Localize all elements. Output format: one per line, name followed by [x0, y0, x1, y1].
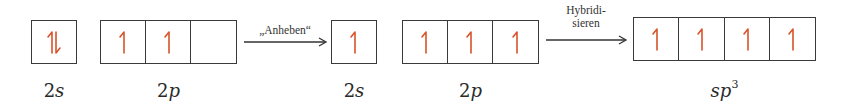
arrow-label-hybridisieren: Hybridi- sieren	[546, 4, 626, 30]
label-orbital: s	[55, 80, 64, 101]
orbital-cell	[403, 21, 448, 63]
orbital-cell	[725, 18, 770, 60]
orbital-cell	[679, 18, 724, 60]
label-number: 2	[344, 80, 355, 101]
orbital-cell	[101, 21, 146, 63]
electron-up-icon	[739, 26, 755, 53]
orbital-box-2p-ground	[100, 20, 237, 64]
electron-up-icon	[417, 29, 433, 56]
label-number: 2	[157, 80, 168, 101]
arrow-right-icon	[545, 34, 629, 46]
electron-up-icon	[160, 29, 176, 56]
arrow-label-line: Hybridi-	[546, 4, 626, 17]
label-orbital: sp	[711, 80, 732, 101]
label-number: 2	[459, 80, 470, 101]
orbital-box-2p-excited	[402, 20, 539, 64]
electron-pair-icon	[46, 29, 62, 56]
label-number: 2	[44, 80, 55, 101]
label-2p-ground: 2p	[100, 80, 237, 101]
electron-up-icon	[784, 26, 800, 53]
arrow-label-line: sieren	[546, 17, 626, 30]
electron-up-icon	[462, 29, 478, 56]
orbital-cell	[332, 21, 376, 63]
orbital-cell	[191, 21, 236, 63]
electron-up-icon	[115, 29, 131, 56]
electron-up-icon	[648, 26, 664, 53]
label-superscript: 3	[731, 78, 738, 91]
label-2p-excited: 2p	[402, 80, 539, 101]
orbital-cell	[448, 21, 493, 63]
orbital-cell	[146, 21, 191, 63]
orbital-box-sp3	[633, 17, 816, 61]
orbital-cell	[32, 21, 76, 63]
label-2s-excited: 2s	[331, 80, 377, 101]
label-orbital: s	[355, 80, 364, 101]
label-2s-ground: 2s	[31, 80, 77, 101]
arrow-label-line: „Anheben“	[259, 24, 311, 36]
arrow-right-icon	[243, 36, 329, 48]
label-orbital: p	[168, 80, 180, 101]
label-sp3: sp3	[633, 80, 816, 101]
orbital-box-2s-ground	[31, 20, 77, 64]
orbital-cell	[634, 18, 679, 60]
orbital-box-2s-excited	[331, 20, 377, 64]
electron-up-icon	[346, 29, 362, 56]
electron-up-icon	[508, 29, 524, 56]
electron-up-icon	[693, 26, 709, 53]
label-orbital: p	[470, 80, 482, 101]
orbital-cell	[770, 18, 815, 60]
orbital-cell	[493, 21, 538, 63]
